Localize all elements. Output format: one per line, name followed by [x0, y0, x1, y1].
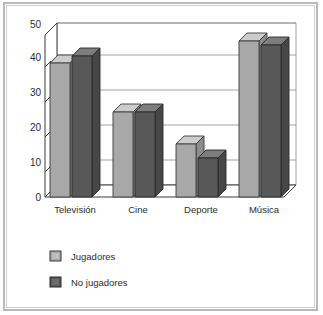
legend-swatch-highlight-icon: [52, 279, 59, 285]
bar-música-no-jugadores: [261, 37, 289, 197]
y-tick-label: 20: [30, 122, 42, 133]
bar-televisión-no-jugadores: [72, 48, 100, 197]
legend-item-no-jugadores[interactable]: No jugadores: [50, 277, 128, 288]
legend-label: No jugadores: [71, 277, 128, 288]
legend-item-jugadores[interactable]: Jugadores: [50, 251, 116, 262]
bar-cine-no-jugadores: [135, 104, 163, 197]
chart-svg: 50 40 30 20 10 0: [0, 0, 323, 315]
y-tick-label: 40: [30, 52, 42, 63]
bar-chart-plot: 50 40 30 20 10 0: [0, 0, 323, 315]
x-tick-label: Televisión: [54, 204, 96, 215]
x-tick-label: Música: [249, 204, 280, 215]
y-tick-label: 10: [30, 157, 42, 168]
x-axis-category-labels: Televisión Cine Deporte Música: [54, 204, 280, 215]
y-tick-label: 50: [30, 19, 42, 30]
x-tick-label: Cine: [128, 204, 148, 215]
legend-swatch-highlight-icon: [52, 253, 59, 259]
x-tick-label: Deporte: [184, 204, 218, 215]
bar-deporte-no-jugadores: [198, 150, 226, 197]
legend-label: Jugadores: [71, 251, 116, 262]
y-axis-tick-labels: 50 40 30 20 10 0: [30, 19, 42, 203]
chart-legend: Jugadores No jugadores: [50, 251, 128, 288]
y-tick-label: 0: [35, 192, 41, 203]
chart-figure: 50 40 30 20 10 0: [0, 0, 323, 315]
y-tick-label: 30: [30, 87, 42, 98]
